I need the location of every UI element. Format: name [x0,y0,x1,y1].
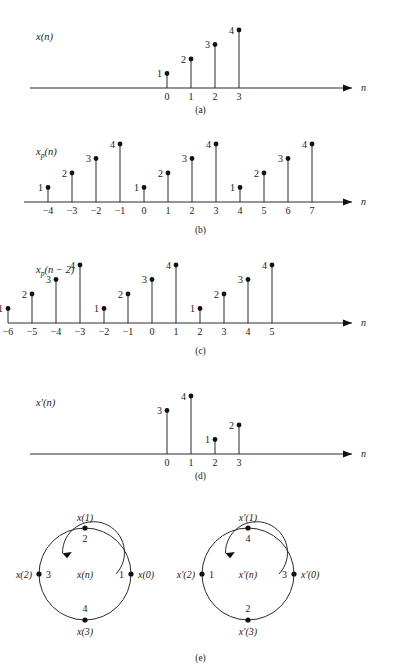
axis-arrowhead-a [343,85,352,92]
stem-dot [174,263,179,268]
signal-label-d: x′(n) [35,397,56,409]
stem-dot [214,142,219,147]
stem-dot [237,28,242,33]
panel-e: 1x(0)2x(1)3x(2)4x(3) x(n) 3x′(0)4x′(1)1x… [0,492,401,672]
stem-value-label: 1 [94,303,99,314]
tick-label: −1 [123,326,134,337]
stem-value-label: 3 [86,153,91,164]
tick-label: 3 [214,205,219,216]
stem-value-label: 2 [214,289,219,300]
circle-node-value: 1 [209,569,214,580]
stem-value-label: 1 [134,182,139,193]
circle-node-dot [82,525,87,530]
circle-node-index-label: x′(2) [176,569,196,581]
tick-label: −4 [51,326,62,337]
stem-value-label: 4 [229,25,234,36]
stem-dot [190,156,195,161]
stem-value-label: 3 [157,405,162,416]
stem-value-label: 2 [181,54,186,65]
tick-label: 5 [270,326,275,337]
circular-diagram-left: 1x(0)2x(1)3x(2)4x(3) x(n) [15,512,155,638]
circle-node-dot [291,571,296,576]
circle-node-index-label: x(3) [76,626,94,638]
tick-label: −3 [75,326,86,337]
circle-node-index-label: x′(3) [238,626,258,638]
stem-dot [150,277,155,282]
stem-dot [213,42,218,47]
stem-dot [126,292,131,297]
caption-e: (e) [195,653,206,663]
stem-dot [310,142,315,147]
circle-node-value: 1 [119,569,124,580]
stem-value-label: 2 [62,168,67,179]
caption-b: (b) [195,225,206,235]
stem-dot [70,171,75,176]
circle-node-dot [199,571,204,576]
panel-d: n x′(n) 30411223 (d) [0,366,401,484]
tick-label: 0 [150,326,155,337]
tick-label: 2 [190,205,195,216]
panel-c: n xp(n − 2) 1−62−53−44−31−22−13041122334… [0,245,401,363]
tick-label: 0 [142,205,147,216]
stem-dot [286,156,291,161]
circle-node-index-label: x′(0) [300,569,320,581]
stem-dot [213,437,218,442]
circle-node-dot [36,571,41,576]
stem-dot [6,306,11,311]
circle-center-label-left: x(n) [76,569,94,581]
stem-value-label: 2 [229,420,234,431]
circle-node-dot [128,571,133,576]
tick-label: −4 [43,205,54,216]
circle-node-index-label: x(0) [137,569,155,581]
caption-a: (a) [195,105,206,115]
caption-c: (c) [195,346,206,356]
stem-dot [238,185,243,190]
axis-label-b: n [361,196,366,207]
stem-value-label: 3 [182,153,187,164]
tick-label: 2 [198,326,203,337]
circular-diagrams: 1x(0)2x(1)3x(2)4x(3) x(n) 3x′(0)4x′(1)1x… [0,492,401,652]
panel-b: n xp(n) 1−42−33−24−11021324314253647 (b) [0,124,401,242]
circle-node-value: 2 [246,603,251,614]
stem-dot [166,171,171,176]
caption-d: (d) [195,471,206,481]
stem-dot [237,423,242,428]
axis-label-a: n [361,82,366,93]
tick-label: −6 [3,326,14,337]
circle-node-value: 4 [246,533,251,544]
circle-node-value: 2 [83,533,88,544]
stem-value-label: 4 [262,260,267,271]
tick-label: −3 [67,205,78,216]
stem-value-label: 4 [302,139,307,150]
signal-label-a: x(n) [35,31,53,43]
stem-value-label: 1 [190,303,195,314]
stem-value-label: 3 [142,274,147,285]
stem-value-label: 3 [278,153,283,164]
stem-value-label: 1 [230,182,235,193]
stem-value-label: 1 [157,68,162,79]
stem-dot [102,306,107,311]
stem-dot [142,185,147,190]
tick-label: 1 [174,326,179,337]
circular-diagram-right: 3x′(0)4x′(1)1x′(2)2x′(3) x′(n) [176,512,320,638]
circle-node-value: 3 [282,569,287,580]
stem-dot [78,263,83,268]
tick-label: −1 [115,205,126,216]
stem-dot [222,292,227,297]
stem-dot [165,408,170,413]
stem-value-label: 3 [46,274,51,285]
stem-value-label: 2 [22,289,27,300]
stem-dot [165,71,170,76]
stem-dot [189,394,194,399]
stem-value-label: 3 [205,39,210,50]
tick-label: 3 [222,326,227,337]
stems-a: 10213243 [157,25,242,103]
stem-value-label: 4 [181,391,186,402]
stem-value-label: 2 [254,168,259,179]
circle-node-value: 3 [46,569,51,580]
axis-arrowhead-c [343,320,352,327]
tick-label: −2 [91,205,102,216]
stem-value-label: 2 [158,168,163,179]
axis-arrowhead-d [343,451,352,458]
circle-node-dot [82,617,87,622]
